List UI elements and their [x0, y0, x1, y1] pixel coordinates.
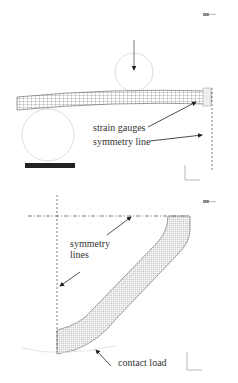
coordinate-axes-icon — [185, 165, 200, 180]
support-roller-icon — [22, 109, 74, 161]
strain-gauges-arrow — [148, 102, 196, 127]
symmetry-arrow-left — [60, 272, 80, 286]
coordinate-axes-icon — [187, 352, 202, 370]
strain-gauges-label: strain gauges — [93, 122, 146, 134]
contact-load-label: contact load — [118, 357, 167, 369]
symmetry-line-label: symmetry line — [93, 136, 151, 148]
contact-load-arrow — [96, 350, 111, 366]
beam-mesh-figure: strain gauges symmetry line — [0, 0, 238, 190]
scale-bar-icon — [25, 163, 75, 168]
logo-icon — [203, 200, 216, 203]
corner-mesh — [57, 216, 190, 354]
symmetry-arrow-top — [107, 217, 131, 235]
symmetry-lines-label-2: lines — [70, 249, 89, 261]
beam-mesh — [17, 88, 211, 110]
logo-icon — [203, 13, 216, 16]
corner-mesh-figure: symmetry lines contact load — [0, 190, 238, 383]
corner-mesh-diagram — [0, 190, 238, 383]
symmetry-line-arrow — [150, 135, 202, 141]
beam-mesh-diagram — [0, 0, 238, 190]
